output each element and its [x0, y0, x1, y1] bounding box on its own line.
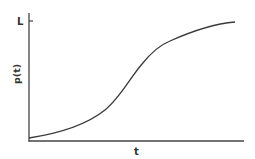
y-tick-label: L — [17, 16, 24, 27]
logistic-curve — [29, 22, 235, 138]
y-axis-label: p(t) — [11, 64, 22, 84]
x-axis-label: t — [134, 146, 139, 157]
logistic-chart: L p(t) t — [0, 0, 255, 159]
